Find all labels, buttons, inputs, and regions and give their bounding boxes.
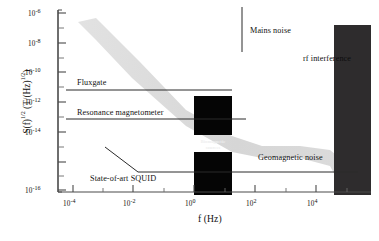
y-axis-title-end: )	[22, 70, 32, 73]
y-axis-title-base: S(f)	[22, 119, 32, 134]
y-axis-title: S(f)1/2 (T/(Hz)1/2)	[20, 27, 31, 177]
noise-spectral-density-figure: 10-6 10-8 10-10 10-12 10-14 10-16 10-4 1…	[0, 0, 379, 241]
x-axis-title: f (Hz)	[198, 213, 222, 224]
y-axis-title-mid: (T/(Hz)	[22, 80, 32, 111]
annotation-mains-noise: Mains noise	[250, 26, 291, 35]
annotation-geomagnetic-noise: Geomagnetic noise	[258, 153, 323, 162]
annotation-state-of-art-squid: State-of-art SQUID	[90, 174, 156, 183]
y-tick-label-0: 10-6	[28, 8, 41, 18]
annotation-rf-interference: rf interference	[303, 54, 351, 63]
y-tick-label-5: 10-16	[25, 185, 41, 195]
x-tick-label-0: 10-4	[63, 198, 76, 208]
y-axis-title-sup1: 1/2	[20, 111, 26, 119]
x-tick-label-2: 100	[185, 198, 196, 208]
annotation-biomagnetic-sources: Biomagnetic sources	[194, 139, 232, 151]
x-tick-label-3: 102	[246, 198, 257, 208]
x-tick-label-4: 104	[307, 198, 318, 208]
y-axis-title-sup2: 1/2	[20, 73, 26, 81]
annotation-fluxgate: Fluxgate	[77, 78, 106, 87]
annotation-resonance-magnetometer: Resonance magnetometer	[77, 108, 164, 117]
x-tick-label-1: 10-2	[123, 198, 136, 208]
